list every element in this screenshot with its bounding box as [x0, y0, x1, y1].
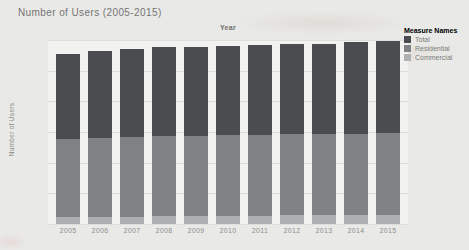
bar-2015[interactable]: [376, 41, 400, 224]
x-tick-label: 2015: [380, 227, 397, 234]
bar-segment-total-2005[interactable]: [56, 54, 80, 139]
bar-2011[interactable]: [248, 45, 272, 224]
bar-segment-total-2008[interactable]: [152, 47, 176, 135]
x-tick-label: 2011: [252, 227, 268, 234]
bar-segment-commercial-2009[interactable]: [184, 216, 208, 224]
plot-area: [48, 40, 408, 224]
legend-item-residential[interactable]: Residential: [404, 45, 466, 52]
bar-segment-total-2013[interactable]: [312, 44, 336, 135]
x-tick-label: 2006: [92, 227, 109, 234]
bar-segment-residential-2014[interactable]: [344, 134, 368, 216]
legend-title: Measure Names: [404, 27, 466, 34]
gridline: [48, 40, 408, 41]
legend-label: Residential: [415, 45, 450, 52]
bar-2014[interactable]: [344, 42, 368, 224]
x-tick-label: 2007: [124, 227, 141, 234]
bar-segment-residential-2008[interactable]: [152, 136, 176, 216]
bar-2008[interactable]: [152, 47, 176, 224]
bar-segment-residential-2009[interactable]: [184, 136, 208, 216]
legend-items: TotalResidentialCommercial: [404, 36, 466, 61]
x-tick-label: 2013: [316, 227, 333, 234]
bar-segment-total-2015[interactable]: [376, 41, 400, 133]
bar-2010[interactable]: [216, 46, 240, 224]
gridline: [48, 224, 408, 225]
x-axis-title: Year: [48, 24, 408, 31]
x-tick-label: 2014: [348, 227, 365, 234]
bar-2013[interactable]: [312, 44, 336, 224]
legend-label: Total: [415, 36, 430, 43]
bar-segment-commercial-2006[interactable]: [88, 217, 112, 224]
bar-segment-commercial-2005[interactable]: [56, 217, 80, 224]
bar-segment-residential-2005[interactable]: [56, 139, 80, 217]
bar-segment-residential-2011[interactable]: [248, 135, 272, 216]
legend-swatch-total: [404, 36, 411, 43]
bar-segment-commercial-2013[interactable]: [312, 215, 336, 224]
x-axis-ticks: 2005200620072008200920102011201220132014…: [48, 227, 408, 239]
bar-2012[interactable]: [280, 44, 304, 224]
bar-2005[interactable]: [56, 54, 80, 225]
legend-swatch-commercial: [404, 54, 411, 61]
bar-segment-total-2012[interactable]: [280, 44, 304, 134]
x-tick-label: 2008: [156, 227, 173, 234]
x-tick-label: 2010: [220, 227, 237, 234]
bar-segment-commercial-2014[interactable]: [344, 215, 368, 224]
chart-figure: Number of Users (2005-2015) Year Number …: [0, 0, 469, 250]
bar-segment-total-2007[interactable]: [120, 49, 144, 137]
legend-swatch-residential: [404, 45, 411, 52]
bar-segment-commercial-2010[interactable]: [216, 216, 240, 224]
bar-segment-residential-2015[interactable]: [376, 133, 400, 215]
bar-segment-commercial-2008[interactable]: [152, 216, 176, 224]
bar-segment-residential-2010[interactable]: [216, 135, 240, 216]
legend-label: Commercial: [415, 54, 452, 61]
x-tick-label: 2009: [188, 227, 205, 234]
bar-2007[interactable]: [120, 49, 144, 224]
bar-segment-residential-2007[interactable]: [120, 137, 144, 217]
legend-item-commercial[interactable]: Commercial: [404, 54, 466, 61]
bar-segment-residential-2013[interactable]: [312, 134, 336, 215]
legend: Measure Names TotalResidentialCommercial: [404, 27, 466, 61]
bar-segment-total-2014[interactable]: [344, 42, 368, 133]
x-tick-label: 2012: [284, 227, 301, 234]
bar-2009[interactable]: [184, 47, 208, 224]
bar-segment-residential-2012[interactable]: [280, 134, 304, 215]
bar-segment-total-2009[interactable]: [184, 47, 208, 136]
bar-2006[interactable]: [88, 51, 112, 224]
bar-segment-commercial-2015[interactable]: [376, 215, 400, 224]
bar-segment-total-2010[interactable]: [216, 46, 240, 136]
y-axis-ticks: 0M50M100M150M200M250M300M: [0, 0, 46, 250]
x-tick-label: 2005: [60, 227, 77, 234]
bar-segment-commercial-2011[interactable]: [248, 216, 272, 224]
bar-segment-commercial-2007[interactable]: [120, 217, 144, 224]
bar-segment-residential-2006[interactable]: [88, 138, 112, 217]
bar-segment-total-2006[interactable]: [88, 51, 112, 137]
bar-segment-total-2011[interactable]: [248, 45, 272, 135]
bar-segment-commercial-2012[interactable]: [280, 215, 304, 224]
legend-item-total[interactable]: Total: [404, 36, 466, 43]
